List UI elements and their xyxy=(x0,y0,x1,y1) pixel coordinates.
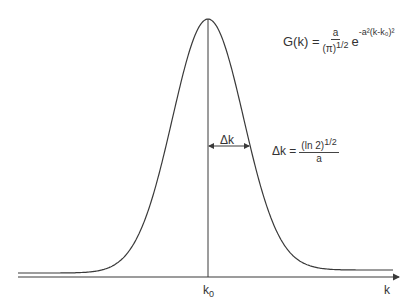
dk-numerator: (ln 2)1/2 xyxy=(299,138,338,153)
k0-sub: 0 xyxy=(209,289,214,299)
formula-numerator: a xyxy=(331,28,341,40)
den-base: (π) xyxy=(322,43,336,54)
dk-denominator: a xyxy=(316,153,322,164)
dk-lhs: Δk = xyxy=(272,145,296,157)
dk-num-base: (ln 2) xyxy=(301,140,324,151)
x-axis-label: k xyxy=(384,284,390,296)
dk-fraction: (ln 2)1/2 a xyxy=(299,138,338,164)
dk-num-exp: 1/2 xyxy=(324,137,337,147)
formula-lhs: G(k) = xyxy=(283,35,319,48)
formula-fraction: a (π)1/2 xyxy=(322,28,348,54)
exp-base: e xyxy=(352,34,359,49)
delta-k-label: Δk xyxy=(220,134,234,146)
gaussian-formula: G(k) = a (π)1/2 e-a²(k-k₀)² xyxy=(283,28,395,54)
den-exp: 1/2 xyxy=(336,40,349,50)
delta-k-formula: Δk = (ln 2)1/2 a xyxy=(272,138,342,164)
k0-tick-label: k0 xyxy=(203,284,214,299)
exp-power: -a²(k-k₀)² xyxy=(359,27,395,37)
formula-exp: e-a²(k-k₀)² xyxy=(352,34,395,48)
formula-denominator: (π)1/2 xyxy=(322,40,348,54)
